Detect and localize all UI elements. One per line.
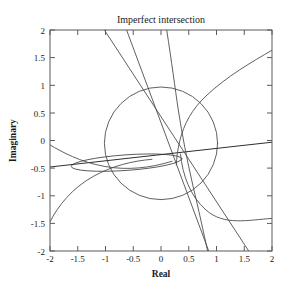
y-axis-label: Imaginary [8,119,18,162]
curve-hyperbola-upper-right [167,30,208,251]
curve-straight-line-steep [127,30,209,251]
x-tick-label: 1.5 [239,254,251,264]
curve-straight-line-shallow [50,142,272,167]
y-tick-label: 0 [41,136,46,146]
y-tick-label: 1.5 [34,53,46,63]
y-tick-labels: 2 1.5 1 0.5 0 -0.5 -1 -1.5 -2 [31,26,46,257]
curve-unit-circle [104,87,217,200]
x-tick-label: 0 [159,254,164,264]
y-tick-label: -2 [38,247,46,257]
y-tick-label: 2 [41,26,46,36]
x-tick-label: 1 [214,254,219,264]
axes-frame [50,30,272,251]
chart-title: Imperfect intersection [117,14,205,25]
y-tick-label: -0.5 [31,164,46,174]
y-tick-label: -1.5 [31,219,46,229]
curve-diagonal-descending [104,30,248,251]
y-tick-label: 1 [41,81,46,91]
y-tick-label: -1 [38,191,46,201]
x-axis-ticks [50,30,272,251]
x-tick-label: -0.5 [126,254,141,264]
x-axis-label: Real [152,269,171,279]
y-tick-label: 0.5 [34,109,46,119]
y-axis-ticks [50,30,272,251]
x-tick-label: 0.5 [183,254,195,264]
x-tick-label: -2 [46,254,54,264]
x-tick-label: -1.5 [71,254,86,264]
chart-figure: -2 -1.5 -1 -0.5 0 0.5 1 1.5 2 2 1.5 1 0.… [0,0,292,294]
x-tick-label: -1 [102,254,110,264]
x-tick-labels: -2 -1.5 -1 -0.5 0 0.5 1 1.5 2 [46,254,274,264]
x-tick-label: 2 [270,254,275,264]
curve-arc-lower-left [50,159,152,222]
curves-group [50,30,272,251]
chart-canvas: -2 -1.5 -1 -0.5 0 0.5 1 1.5 2 2 1.5 1 0.… [0,0,292,294]
